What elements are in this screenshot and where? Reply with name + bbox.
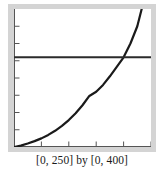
axis-window-caption: [0, 250] by [0, 400]	[0, 154, 164, 166]
plot-frame	[8, 4, 156, 152]
series-exponential-curve	[14, 9, 142, 147]
plot-svg	[14, 9, 151, 147]
plot-area	[14, 9, 151, 147]
figure-container: [0, 250] by [0, 400]	[0, 0, 164, 180]
